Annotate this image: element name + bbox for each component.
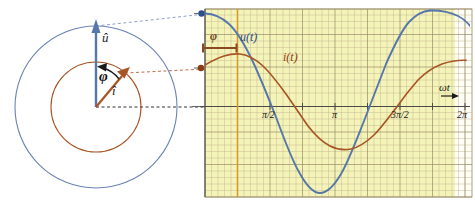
x-tick-label-pi: π xyxy=(332,110,337,120)
phase-shift-label: φ xyxy=(210,30,217,42)
voltage-curve-label: u(t) xyxy=(240,31,257,43)
x-tick-label-pi-over-2: π/2 xyxy=(262,110,275,120)
y-axis-stub-ticks xyxy=(192,14,202,107)
current-curve-label: i(t) xyxy=(283,51,298,63)
waveform-plot xyxy=(0,0,475,205)
voltage-start-marker xyxy=(198,10,204,16)
x-tick-label-3pi-over-2: 3π/2 xyxy=(391,110,409,120)
x-axis-label: ωt xyxy=(439,82,450,93)
figure-root: û î φ xyxy=(0,0,475,205)
x-tick-label-2pi: 2π xyxy=(457,110,467,120)
plot-unshaded-background xyxy=(455,9,473,197)
current-start-marker xyxy=(198,65,204,71)
